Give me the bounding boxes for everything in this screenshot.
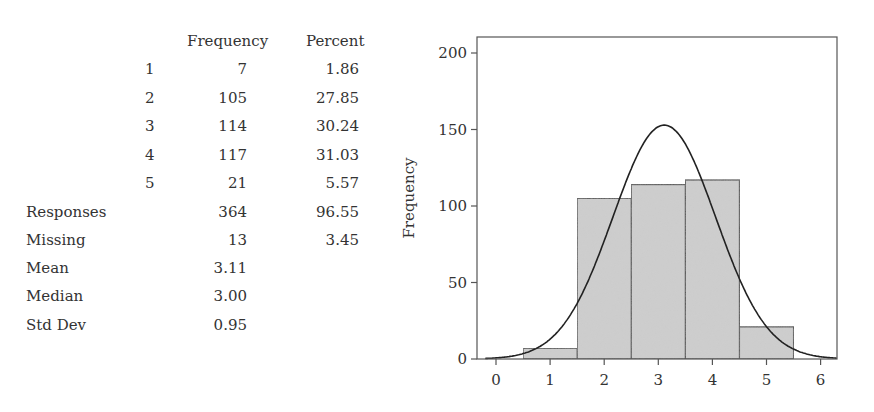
x-tick-label: 2 [599,371,609,389]
x-axis: 0123456 [491,359,825,389]
y-axis-label: Frequency [400,157,418,239]
histogram-bar [523,348,577,359]
histogram-bar [577,198,631,359]
y-tick-label: 200 [438,44,467,62]
y-axis: 050100150200 [438,44,477,368]
x-tick-label: 0 [491,371,501,389]
histogram-bars [523,180,794,359]
x-tick-label: 3 [654,371,664,389]
y-tick-label: 150 [438,121,467,139]
x-tick-label: 4 [708,371,718,389]
x-tick-label: 5 [762,371,772,389]
y-tick-label: 0 [457,350,467,368]
x-tick-label: 1 [545,371,555,389]
x-tick-label: 6 [816,371,826,389]
y-tick-label: 100 [438,197,467,215]
histogram-bar [631,185,685,359]
histogram-bar [739,327,793,359]
y-tick-label: 50 [448,274,467,292]
histogram-chart: 050100150200 0123456 Frequency [0,0,874,412]
